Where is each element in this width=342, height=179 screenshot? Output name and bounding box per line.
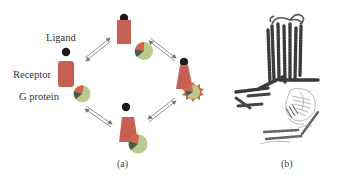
arrow-left-top: [85, 38, 111, 61]
receptor-label: Receptor: [13, 70, 51, 81]
receptor-icon: [117, 20, 131, 44]
g-protein-icon: [74, 85, 91, 102]
receptor-icon: [58, 61, 74, 87]
panel-b-caption: (b): [281, 159, 293, 169]
state-right: [176, 58, 204, 102]
figure: Ligand Receptor G protein (a) (b): [0, 0, 342, 179]
panel-a-diagram: [0, 0, 342, 179]
state-top: [117, 14, 153, 60]
ligand-icon: [180, 58, 188, 66]
state-left: [58, 48, 91, 103]
panel-a-caption: (a): [117, 159, 128, 169]
state-bottom: [119, 103, 148, 154]
ligand-icon: [62, 48, 70, 56]
ligand-icon: [122, 103, 130, 111]
g-protein-icon: [135, 42, 153, 60]
arrow-top-right: [149, 38, 176, 61]
protein-structure-image: [236, 15, 318, 144]
g-protein-label: G protein: [19, 92, 59, 103]
g-protein-icon: [129, 134, 148, 153]
ligand-label: Ligand: [46, 33, 76, 44]
arrow-right-bottom: [148, 98, 176, 122]
arrow-bottom-left: [85, 106, 112, 127]
